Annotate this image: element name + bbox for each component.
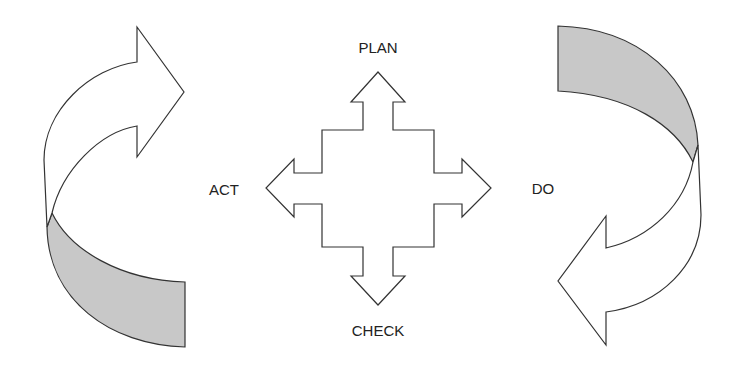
label-do: DO [532,180,555,197]
pdca-diagram: PLAN DO CHECK ACT [0,0,740,376]
four-way-arrow-icon [266,72,491,305]
left-curved-arrow-icon [44,27,184,227]
label-act: ACT [209,181,239,198]
right-arrow-shaded-band [558,26,698,162]
label-check: CHECK [352,322,405,339]
left-arrow-shaded-band [47,213,185,347]
label-plan: PLAN [358,39,397,56]
right-curved-arrow-icon [558,145,701,345]
